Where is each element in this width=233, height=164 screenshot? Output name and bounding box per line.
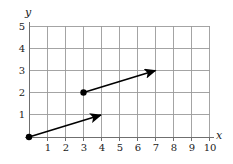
x-axis-label: x xyxy=(216,129,222,142)
vector-1 xyxy=(26,115,101,140)
vector-2-origin-dot xyxy=(80,89,86,95)
x-tick-label: 3 xyxy=(74,142,94,153)
vector-1-shaft xyxy=(29,115,101,137)
y-tick-label: 1 xyxy=(11,109,25,120)
x-tick-label: 4 xyxy=(92,142,112,153)
vector-2 xyxy=(80,71,155,96)
x-tick-label: 7 xyxy=(146,142,166,153)
y-axis-label: y xyxy=(25,6,31,19)
y-tick-label: 4 xyxy=(11,43,25,54)
x-tick-label: 8 xyxy=(164,142,184,153)
x-tick-label: 9 xyxy=(182,142,202,153)
y-tick-label: 2 xyxy=(11,87,25,98)
chart-figure: y x 1 2 3 4 5 6 7 8 9 10 1 2 3 4 5 xyxy=(0,0,233,164)
vector-1-origin-dot xyxy=(26,134,32,140)
y-tick-label: 5 xyxy=(11,21,25,32)
coordinate-plane-svg xyxy=(0,0,233,164)
x-tick-label: 6 xyxy=(128,142,148,153)
x-tick-label: 2 xyxy=(56,142,76,153)
x-tick-label: 1 xyxy=(38,142,58,153)
x-tick-label: 10 xyxy=(200,142,220,153)
x-tick-label: 5 xyxy=(110,142,130,153)
y-tick-label: 3 xyxy=(11,65,25,76)
